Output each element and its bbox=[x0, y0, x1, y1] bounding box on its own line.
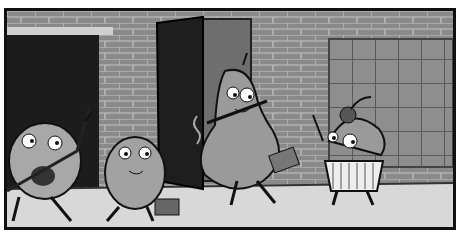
comic-panel bbox=[4, 8, 456, 230]
comic-scene bbox=[7, 11, 453, 227]
sidewalk bbox=[7, 183, 453, 227]
